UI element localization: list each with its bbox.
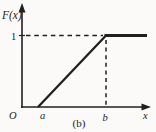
origin-label: O [9, 110, 17, 121]
y-axis-label: F(x) [1, 9, 22, 22]
x-tick-label-a: a [40, 110, 45, 121]
x-tick-label-b: b [103, 112, 108, 123]
figure-canvas: F(x) 1 O a b x (b) [0, 0, 156, 132]
cdf-ramp-segment [39, 36, 107, 107]
y-tick-label-1: 1 [11, 31, 16, 42]
x-axis-label: x [142, 110, 148, 121]
figure-caption: (b) [73, 117, 86, 130]
cdf-figure: F(x) 1 O a b x (b) [0, 0, 156, 132]
